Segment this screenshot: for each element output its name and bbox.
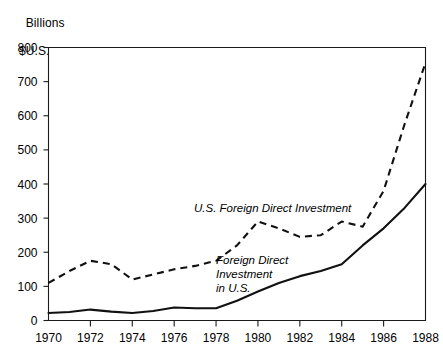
x-tick-label: 1972 [77, 331, 104, 345]
chart-canvas: 0100200300400500600700800 19701972197419… [0, 0, 443, 349]
x-tick-label: 1986 [370, 331, 397, 345]
series-label-foreign-direct-investment-in-us-line2: Investment [216, 268, 273, 280]
x-tick-label: 1984 [328, 331, 355, 345]
y-tick-label: 600 [17, 109, 37, 123]
series-line-us-foreign-direct-investment [49, 63, 426, 283]
y-tick-label: 300 [17, 212, 37, 226]
x-tick-label: 1974 [119, 331, 146, 345]
y-tick-label: 500 [17, 143, 37, 157]
x-tick-label: 1970 [35, 331, 62, 345]
y-tick-label: 200 [17, 246, 37, 260]
x-axis-tick-marks [90, 321, 383, 327]
y-axis-tick-labels: 0100200300400500600700800 [17, 41, 37, 328]
x-tick-label: 1976 [161, 331, 188, 345]
series-label-foreign-direct-investment-in-us-line1: Foreign Direct [216, 254, 289, 266]
x-tick-label: 1980 [245, 331, 272, 345]
x-axis-tick-labels: 1970197219741976197819801982198419861988 [35, 331, 439, 345]
x-tick-label: 1988 [412, 331, 439, 345]
y-axis-tick-marks [44, 48, 49, 321]
series-label-foreign-direct-investment-in-us-line3: in U.S. [216, 282, 251, 294]
series-label-us-foreign-direct-investment: U.S. Foreign Direct Investment [194, 202, 352, 214]
chart-figure: Billions $U.S. 0100200300400500600700800… [0, 0, 443, 349]
x-tick-label: 1978 [203, 331, 230, 345]
x-tick-label: 1982 [286, 331, 313, 345]
y-tick-label: 700 [17, 75, 37, 89]
y-tick-label: 800 [17, 41, 37, 55]
y-tick-label: 400 [17, 178, 37, 192]
y-tick-label: 0 [31, 314, 38, 328]
y-tick-label: 100 [17, 280, 37, 294]
